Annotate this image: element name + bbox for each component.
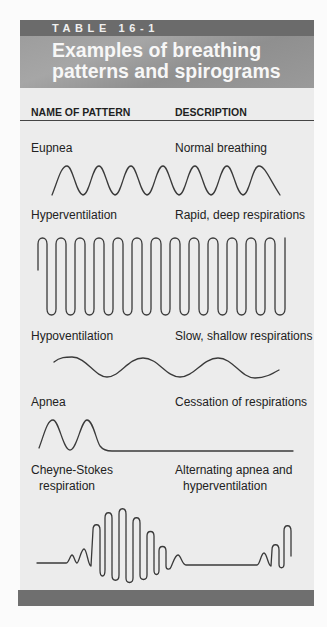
table-panel: TABLE 16-1 Examples of breathing pattern… (20, 20, 314, 606)
row-description-hyperventilation: Rapid, deep respirations (175, 208, 305, 223)
row-description-eupnea: Normal breathing (175, 141, 267, 156)
column-header-name: NAME OF PATTERN (31, 106, 130, 118)
table-title: Examples of breathing patterns and spiro… (52, 40, 312, 82)
header-divider (20, 120, 314, 121)
table-number-strip: TABLE 16-1 (20, 20, 314, 36)
footer-bar (18, 590, 314, 606)
row-name-cheyne-stokes-line1: Cheyne-Stokes (31, 463, 113, 478)
title-block: Examples of breathing patterns and spiro… (20, 36, 314, 88)
row-description-hypoventilation: Slow, shallow respirations (175, 329, 312, 344)
row-name-eupnea: Eupnea (31, 141, 72, 156)
row-name-hypoventilation: Hypoventilation (31, 329, 113, 344)
column-header-description: DESCRIPTION (175, 106, 247, 118)
row-name-cheyne-stokes-line2: respiration (39, 479, 95, 494)
row-name-hyperventilation: Hyperventilation (31, 208, 117, 223)
row-description-cheyne-stokes-line1: Alternating apnea and (175, 463, 292, 478)
row-name-apnea: Apnea (31, 395, 66, 410)
row-description-apnea: Cessation of respirations (175, 395, 307, 410)
row-description-cheyne-stokes-line2: hyperventilation (183, 479, 267, 494)
table-number: TABLE 16-1 (52, 22, 159, 34)
